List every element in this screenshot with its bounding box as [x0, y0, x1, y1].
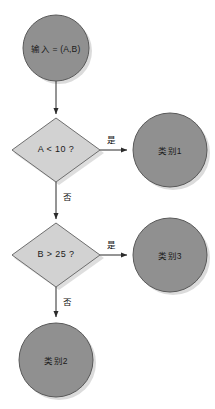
node-layer [12, 15, 207, 397]
node-decision-b-shape[interactable] [12, 223, 100, 287]
node-decision-a-shape[interactable] [12, 118, 100, 182]
node-class-2-shape[interactable] [19, 323, 93, 397]
node-class-3-shape[interactable] [133, 218, 207, 292]
node-start-shape[interactable] [23, 15, 89, 81]
node-class-1-shape[interactable] [133, 113, 207, 187]
flowchart-canvas [0, 0, 215, 409]
